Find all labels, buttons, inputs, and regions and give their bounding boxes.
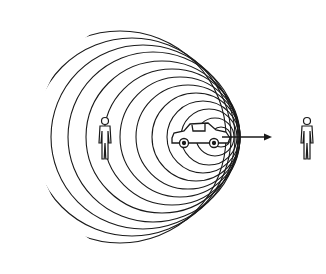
observer-right-icon: [301, 118, 313, 160]
diagram-canvas: [0, 0, 326, 274]
doppler-diagram: Doppler effect: moving car emitting soun…: [0, 0, 326, 274]
observer-left-icon: [99, 118, 111, 160]
